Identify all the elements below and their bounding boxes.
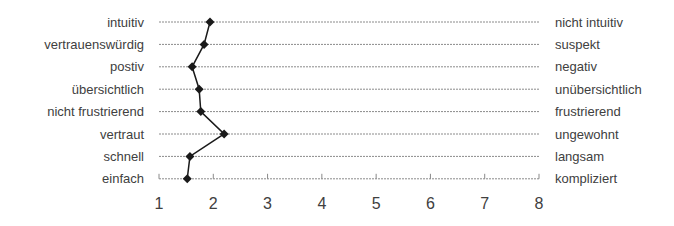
left-label: einfach (102, 171, 144, 186)
diamond-marker-icon (206, 18, 215, 27)
diamond-marker-icon (195, 85, 204, 94)
left-label: intuitiv (107, 15, 144, 30)
x-tick-label: 7 (480, 195, 489, 212)
left-label: postiv (110, 59, 144, 74)
x-tick-label: 1 (155, 195, 164, 212)
diamond-marker-icon (185, 152, 194, 161)
right-label: ungewohnt (555, 127, 619, 142)
x-tick-label: 3 (263, 195, 272, 212)
left-label: übersichtlich (72, 82, 144, 97)
right-label: negativ (555, 59, 597, 74)
profile-line-series (183, 18, 229, 184)
left-label: nicht frustrierend (47, 104, 144, 119)
left-label: schnell (104, 149, 145, 164)
right-label: langsam (555, 149, 604, 164)
x-tick-label: 4 (317, 195, 326, 212)
x-tick-label: 2 (209, 195, 218, 212)
right-label: unübersichtlich (555, 82, 642, 97)
x-tick-label: 8 (535, 195, 544, 212)
right-label: frustrierend (555, 104, 621, 119)
left-adjective-labels: intuitivvertrauenswürdigpostivübersichtl… (44, 15, 144, 187)
x-tick-label: 5 (372, 195, 381, 212)
right-adjective-labels: nicht intuitivsuspektnegativunübersichtl… (555, 15, 642, 187)
x-tick-label: 6 (426, 195, 435, 212)
semantic-differential-chart: 12345678 intuitivvertrauenswürdigpostivü… (0, 0, 674, 226)
grid-lines (159, 22, 539, 179)
right-label: suspekt (555, 37, 600, 52)
right-label: nicht intuitiv (555, 15, 623, 30)
left-label: vertrauenswürdig (44, 37, 144, 52)
diamond-marker-icon (183, 174, 192, 183)
diamond-marker-icon (200, 40, 209, 49)
diamond-marker-icon (188, 62, 197, 71)
right-label: kompliziert (555, 171, 618, 186)
left-label: vertraut (100, 127, 144, 142)
x-axis: 12345678 (155, 174, 544, 212)
